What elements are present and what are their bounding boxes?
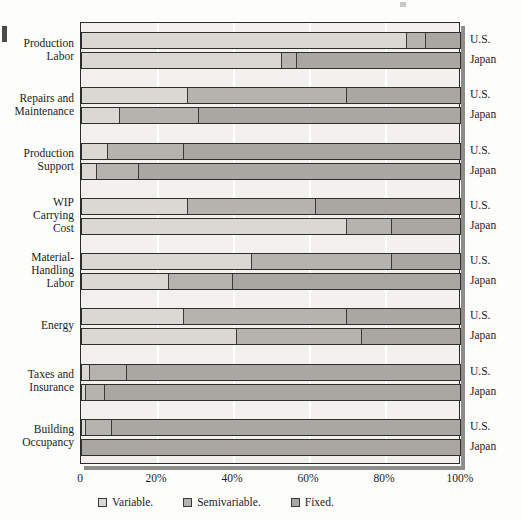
bar-segment-semivariable[interactable] [120, 108, 199, 123]
bar-segment-fixed[interactable] [362, 329, 460, 344]
bar-segment-fixed[interactable] [426, 33, 460, 48]
category-label-line: Support [0, 160, 74, 173]
series-label-us: U.S. [470, 254, 490, 267]
bar-segment-fixed[interactable] [316, 199, 460, 214]
bar-segment-fixed[interactable] [184, 144, 460, 159]
bar-segment-semivariable[interactable] [184, 309, 347, 324]
category-label-line: Carrying [0, 209, 74, 222]
legend-label-fixed: Fixed. [305, 496, 334, 508]
bar-row[interactable] [81, 87, 461, 104]
bar-row[interactable] [81, 198, 461, 215]
category-label-line: Occupancy [0, 436, 74, 449]
bar-segment-semivariable[interactable] [86, 420, 112, 435]
bar-segment-variable[interactable] [82, 88, 188, 103]
category-label-line: Production [0, 147, 74, 160]
bar-segment-semivariable[interactable] [252, 254, 392, 269]
category-label-line: Insurance [0, 381, 74, 394]
category-label-line: WIP [0, 196, 74, 209]
bar-segment-fixed[interactable] [127, 365, 460, 380]
category-label: WIPCarryingCost [0, 196, 74, 235]
category-label-line: Maintenance [0, 105, 74, 118]
bar-row[interactable] [81, 253, 461, 270]
bar-segment-semivariable[interactable] [407, 33, 426, 48]
plot-area [80, 22, 460, 464]
bar-row[interactable] [81, 364, 461, 381]
bar-segment-semivariable[interactable] [282, 53, 297, 68]
bar-segment-variable[interactable] [82, 53, 282, 68]
bar-segment-fixed[interactable] [297, 53, 460, 68]
scan-artifact-top-icon [400, 2, 406, 7]
category-label-line: Cost [0, 222, 74, 235]
bar-segment-semivariable[interactable] [188, 199, 317, 214]
category-label: BuildingOccupancy [0, 423, 74, 449]
bar-segment-fixed[interactable] [347, 309, 460, 324]
series-label-us: U.S. [470, 309, 490, 322]
bar-row[interactable] [81, 328, 461, 345]
bar-row[interactable] [81, 32, 461, 49]
category-label-line: Labor [0, 50, 74, 63]
bar-segment-fixed[interactable] [199, 108, 460, 123]
category-label: Material-HandlingLabor [0, 251, 74, 290]
bar-segment-fixed[interactable] [233, 274, 460, 289]
legend-item-variable[interactable]: Variable. [98, 496, 153, 508]
bar-segment-semivariable[interactable] [237, 329, 362, 344]
bar-segment-variable[interactable] [82, 309, 184, 324]
bar-segment-semivariable[interactable] [169, 274, 233, 289]
series-label-us: U.S. [470, 33, 490, 46]
bar-segment-semivariable[interactable] [188, 88, 347, 103]
bar-segment-fixed[interactable] [105, 385, 460, 400]
bar-segment-fixed[interactable] [392, 219, 460, 234]
bar-segment-fixed[interactable] [82, 440, 460, 455]
legend-swatch-fixed [291, 498, 300, 507]
series-label-us: U.S. [470, 144, 490, 157]
chart-container: ProductionLaborRepairs andMaintenancePro… [0, 0, 521, 520]
bar-row[interactable] [81, 273, 461, 290]
bar-segment-variable[interactable] [82, 274, 169, 289]
series-label-us: U.S. [470, 365, 490, 378]
bar-row[interactable] [81, 143, 461, 160]
series-label-japan: Japan [470, 108, 496, 121]
legend-item-fixed[interactable]: Fixed. [291, 496, 334, 508]
plot-shadow-bottom [84, 466, 464, 470]
bar-segment-semivariable[interactable] [90, 365, 128, 380]
legend-label-variable: Variable. [112, 496, 153, 508]
bar-segment-variable[interactable] [82, 329, 237, 344]
bar-segment-variable[interactable] [82, 164, 97, 179]
bar-segment-variable[interactable] [82, 33, 407, 48]
bar-segment-fixed[interactable] [347, 88, 460, 103]
bar-row[interactable] [81, 419, 461, 436]
plot-shadow-right [461, 26, 465, 470]
bar-segment-semivariable[interactable] [97, 164, 139, 179]
category-label-line: Production [0, 37, 74, 50]
bar-segment-variable[interactable] [82, 108, 120, 123]
bar-segment-semivariable[interactable] [86, 385, 105, 400]
bar-row[interactable] [81, 308, 461, 325]
x-tick-label: 60% [297, 472, 318, 484]
legend-label-semivariable: Semivariable. [197, 496, 261, 508]
bar-segment-variable[interactable] [82, 219, 347, 234]
bar-row[interactable] [81, 107, 461, 124]
bar-row[interactable] [81, 384, 461, 401]
bar-segment-variable[interactable] [82, 365, 90, 380]
x-tick-label: 100% [447, 472, 474, 484]
bar-segment-semivariable[interactable] [108, 144, 184, 159]
category-label: Repairs andMaintenance [0, 92, 74, 118]
legend-item-semivariable[interactable]: Semivariable. [183, 496, 261, 508]
bar-segment-variable[interactable] [82, 144, 108, 159]
series-label-japan: Japan [470, 53, 496, 66]
legend-swatch-variable [98, 498, 107, 507]
bar-segment-fixed[interactable] [139, 164, 460, 179]
bar-row[interactable] [81, 439, 461, 456]
bar-segment-variable[interactable] [82, 199, 188, 214]
bar-segment-fixed[interactable] [392, 254, 460, 269]
bar-segment-semivariable[interactable] [347, 219, 392, 234]
bar-segment-variable[interactable] [82, 254, 252, 269]
series-label-japan: Japan [470, 274, 496, 287]
bar-row[interactable] [81, 52, 461, 69]
bar-segment-fixed[interactable] [112, 420, 460, 435]
series-label-japan: Japan [470, 385, 496, 398]
category-label-line: Energy [0, 319, 74, 332]
x-tick-label: 20% [145, 472, 166, 484]
bar-row[interactable] [81, 163, 461, 180]
bar-row[interactable] [81, 218, 461, 235]
